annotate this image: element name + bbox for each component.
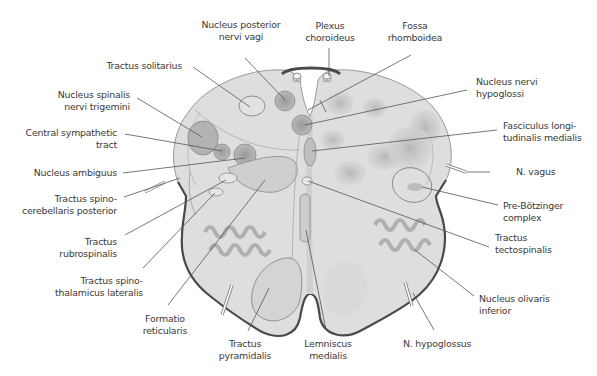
label-tractus-spinothalamicus-lateralis: Tractus spino- thalamicus lateralis xyxy=(40,275,143,299)
label-pre-botzinger-complex: Pre-Bötzinger complex xyxy=(503,200,563,224)
label-central-sympathetic-tract: Central sympathetic tract xyxy=(10,127,117,151)
label-line: rubrospinalis xyxy=(40,248,117,260)
label-line: reticularis xyxy=(135,325,195,337)
label-line: Nucleus nervi xyxy=(476,76,537,88)
label-line: cerebellaris posterior xyxy=(10,205,117,217)
label-line: tectospinalis xyxy=(495,244,552,256)
label-formatio-reticularis: Formatio reticularis xyxy=(135,313,195,337)
label-fasciculus-longitudinalis-medialis: Fasciculus longi- tudinalis medialis xyxy=(503,120,582,144)
label-line: Formatio xyxy=(135,313,195,325)
label-line: Nucleus posterior xyxy=(196,19,286,31)
label-line: Tractus spino- xyxy=(10,193,117,205)
label-line: complex xyxy=(503,212,563,224)
label-line: N. vagus xyxy=(516,166,555,178)
label-plexus-choroideus: Plexus choroideus xyxy=(300,20,360,44)
label-nucleus-nervi-hypoglossi: Nucleus nervi hypoglossi xyxy=(476,76,537,100)
label-line: thalamicus lateralis xyxy=(40,287,143,299)
label-tractus-rubrospinalis: Tractus rubrospinalis xyxy=(40,236,117,260)
label-line: pyramidalis xyxy=(215,350,275,362)
label-nucleus-olivaris-inferior: Nucleus olivaris inferior xyxy=(479,293,550,317)
label-line: Plexus xyxy=(300,20,360,32)
label-tractus-pyramidalis: Tractus pyramidalis xyxy=(215,338,275,362)
label-line: Fossa xyxy=(385,20,445,32)
label-line: Nucleus olivaris xyxy=(479,293,550,305)
label-line: Tractus xyxy=(40,236,117,248)
label-line: tract xyxy=(10,139,117,151)
label-line: Lemniscus xyxy=(298,338,358,350)
label-line: tudinalis medialis xyxy=(503,132,582,144)
label-line: nervi trigemini xyxy=(40,101,130,113)
label-line: Tractus xyxy=(495,232,552,244)
label-line: inferior xyxy=(479,305,550,317)
label-line: Tractus xyxy=(215,338,275,350)
label-tractus-spinocerebellaris-posterior: Tractus spino- cerebellaris posterior xyxy=(10,193,117,217)
label-line: Central sympathetic xyxy=(10,127,117,139)
label-tractus-solitarius: Tractus solitarius xyxy=(90,60,182,72)
label-line: hypoglossi xyxy=(476,88,537,100)
label-lemniscus-medialis: Lemniscus medialis xyxy=(298,338,358,362)
label-line: Tractus spino- xyxy=(40,275,143,287)
label-nucleus-ambiguus: Nucleus ambiguus xyxy=(20,167,117,179)
label-line: rhomboidea xyxy=(385,32,445,44)
label-line: nervi vagi xyxy=(196,31,286,43)
label-line: Fasciculus longi- xyxy=(503,120,582,132)
label-nucleus-posterior-nervi-vagi: Nucleus posterior nervi vagi xyxy=(196,19,286,43)
label-line: Nucleus spinalis xyxy=(40,89,130,101)
medulla-cross-section-diagram xyxy=(0,0,597,376)
label-tractus-tectospinalis: Tractus tectospinalis xyxy=(495,232,552,256)
label-line: choroideus xyxy=(300,32,360,44)
label-line: N. hypoglossus xyxy=(403,338,471,350)
label-n-hypoglossus: N. hypoglossus xyxy=(403,338,471,350)
label-line: Nucleus ambiguus xyxy=(20,167,117,179)
label-line: Tractus solitarius xyxy=(90,60,182,72)
label-nucleus-spinalis-nervi-trigemini: Nucleus spinalis nervi trigemini xyxy=(40,89,130,113)
label-n-vagus: N. vagus xyxy=(516,166,555,178)
label-line: medialis xyxy=(298,350,358,362)
label-line: Pre-Bötzinger xyxy=(503,200,563,212)
label-fossa-rhomboidea: Fossa rhomboidea xyxy=(385,20,445,44)
